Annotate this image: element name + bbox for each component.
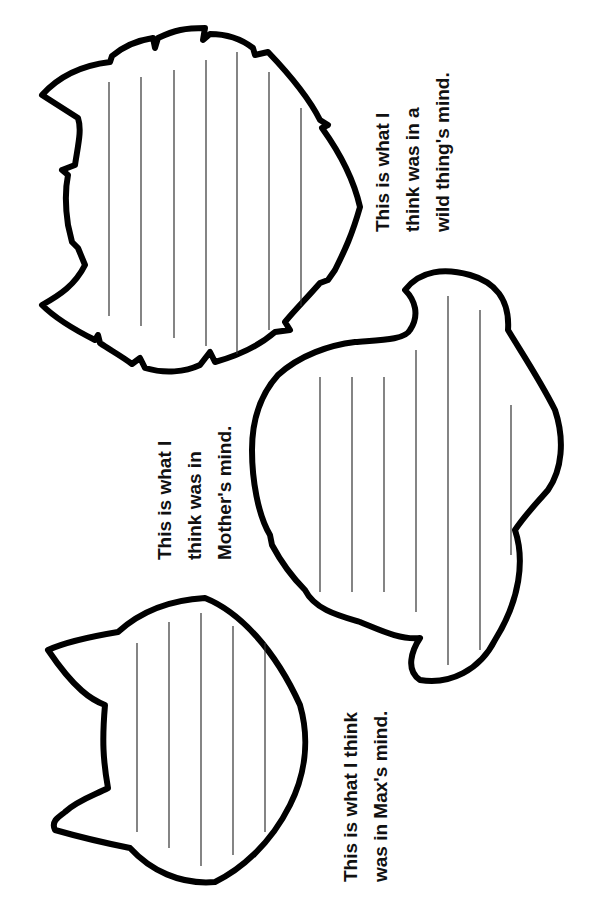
mother-cloud-shape [252, 271, 561, 681]
mother-caption: This is what I think was in Mother's min… [150, 426, 240, 560]
wild-thing-head-shape [42, 28, 360, 372]
caption-line: This is what I [150, 426, 180, 560]
caption-line: think was in [180, 426, 210, 560]
caption-line: This is what I [368, 72, 398, 232]
caption-line: think was in a [398, 72, 428, 232]
worksheet-page: This is what I think was in a wild thing… [0, 0, 593, 900]
max-caption: This is what I think was in Max's mind. [336, 711, 396, 882]
caption-line: was in Max's mind. [366, 711, 396, 882]
caption-line: wild thing's mind. [428, 72, 458, 232]
max-head-shape [48, 598, 305, 882]
caption-line: This is what I think [336, 711, 366, 882]
wild-thing-caption: This is what I think was in a wild thing… [368, 72, 458, 232]
caption-line: Mother's mind. [210, 426, 240, 560]
